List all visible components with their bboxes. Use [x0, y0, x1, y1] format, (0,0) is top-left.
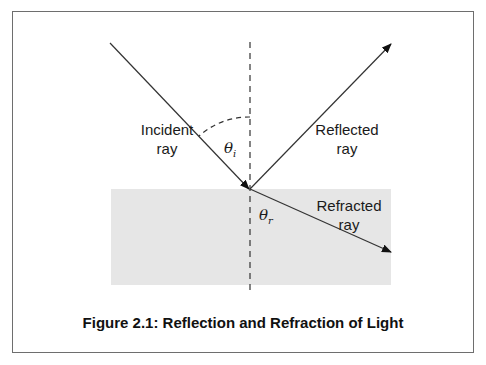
incident-ray [110, 43, 249, 189]
reflected-label-line2: ray [307, 139, 387, 158]
theta-r-symbol: θ [259, 206, 268, 224]
reflected-ray-label: Reflected ray [307, 120, 387, 158]
theta-i-subscript: i [233, 148, 236, 159]
incidence-angle-arc [199, 117, 250, 136]
refracted-ray-label: Refracted ray [309, 196, 389, 234]
theta-r-label: θr [259, 206, 273, 226]
refracted-label-line2: ray [309, 215, 389, 234]
incident-label-line2: ray [132, 139, 202, 158]
theta-i-symbol: θ [224, 139, 233, 157]
reflected-label-line1: Reflected [307, 120, 387, 139]
reflected-ray [250, 44, 391, 189]
theta-i-label: θi [224, 139, 236, 159]
theta-r-subscript: r [268, 215, 273, 226]
figure-caption: Figure 2.1: Reflection and Refraction of… [0, 314, 486, 331]
refracted-label-line1: Refracted [309, 196, 389, 215]
incident-ray-label: Incident ray [132, 120, 202, 158]
ray-diagram [0, 0, 486, 365]
incident-label-line1: Incident [132, 120, 202, 139]
